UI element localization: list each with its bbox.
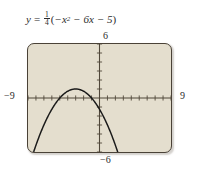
- fraction-denominator: 4: [44, 18, 50, 27]
- axis-label-x-min: −9: [4, 91, 15, 101]
- graph-plot-area: [27, 43, 172, 153]
- equation-term-1: −x: [55, 14, 67, 25]
- graph-figure: y = 1 4 ( −x2 − 6x − 5 ) 6 −6 −9 9: [0, 0, 197, 172]
- axes-group: [28, 44, 171, 152]
- equation-term-3: − 5: [97, 14, 113, 25]
- equation-caption: y = 1 4 ( −x2 − 6x − 5 ): [26, 11, 116, 27]
- fraction-numerator: 1: [44, 11, 50, 19]
- axis-label-y-max: 6: [103, 31, 108, 41]
- graph-viewing-window: [27, 43, 172, 153]
- equation-fraction-one-fourth: 1 4: [44, 11, 50, 27]
- axis-label-x-max: 9: [180, 91, 185, 101]
- equation-close-paren: ): [113, 14, 117, 25]
- equation-lhs: y: [26, 14, 31, 25]
- axis-label-y-min: −6: [100, 155, 111, 165]
- parabola-plot: [28, 44, 171, 152]
- equation-term-2: − 6x: [73, 14, 94, 25]
- equation-equals: =: [34, 14, 40, 25]
